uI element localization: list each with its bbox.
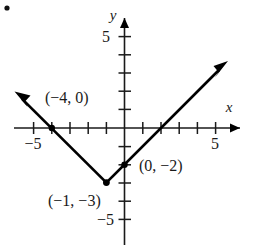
x-axis-label: x [225, 99, 233, 115]
x-tick-label-positive-5: 5 [211, 135, 219, 152]
x-axis-arrow-icon [230, 124, 240, 133]
label-vertex: (−1, −3) [48, 192, 101, 210]
point-y-intercept [121, 162, 127, 168]
y-axis-label: y [108, 7, 117, 23]
y-axis-arrow-icon [120, 18, 129, 28]
list-bullet-icon [4, 5, 9, 10]
y-tick-label-negative-5: −5 [97, 211, 114, 228]
graph-figure: x y −5 5 5 −5 (−4, 0) (0, −2) (−1, −3) [0, 0, 258, 245]
coordinate-plane-svg: x y −5 5 5 −5 (−4, 0) (0, −2) (−1, −3) [0, 0, 258, 245]
y-axis [119, 18, 132, 245]
label-y-intercept: (0, −2) [139, 157, 183, 175]
point-x-intercept [49, 125, 55, 131]
y-tick-label-positive-5: 5 [102, 28, 110, 45]
point-vertex [103, 179, 110, 186]
label-x-intercept: (−4, 0) [45, 89, 89, 107]
x-tick-label-negative-5: −5 [24, 135, 41, 152]
